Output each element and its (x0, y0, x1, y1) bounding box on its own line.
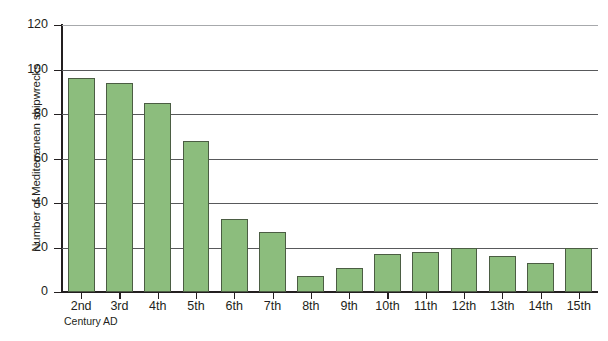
x-tick-label-4th: 4th (139, 299, 177, 313)
x-axis-title: Century AD (64, 315, 118, 327)
gridline-100 (62, 70, 598, 71)
x-tick-5th (196, 292, 197, 299)
y-tick-0 (54, 292, 62, 293)
x-tick-6th (234, 292, 235, 299)
bar-12th (451, 248, 478, 293)
bar-10th (374, 254, 401, 292)
shipwrecks-bar-chart: Number of Mediterranean shipwrecks 02040… (0, 0, 608, 341)
x-tick-7th (273, 292, 274, 299)
x-tick-label-3rd: 3rd (100, 299, 138, 313)
y-tick-label-80: 80 (0, 106, 48, 120)
bar-15th (565, 248, 592, 293)
x-tick-14th (541, 292, 542, 299)
x-tick-label-9th: 9th (330, 299, 368, 313)
x-tick-label-11th: 11th (407, 299, 445, 313)
bar-5th (183, 141, 210, 292)
y-tick-label-20: 20 (0, 240, 48, 254)
y-tick-label-40: 40 (0, 195, 48, 209)
x-tick-2nd (81, 292, 82, 299)
bar-13th (489, 256, 516, 292)
y-tick-label-120: 120 (0, 17, 48, 31)
bar-6th (221, 219, 248, 292)
y-tick-80 (54, 114, 62, 115)
plot-area (62, 25, 598, 292)
y-tick-60 (54, 159, 62, 160)
bar-14th (527, 263, 554, 292)
y-tick-100 (54, 70, 62, 71)
bar-7th (259, 232, 286, 292)
x-tick-label-5th: 5th (177, 299, 215, 313)
y-tick-label-100: 100 (0, 62, 48, 76)
x-tick-label-7th: 7th (253, 299, 291, 313)
x-tick-13th (502, 292, 503, 299)
x-tick-label-8th: 8th (292, 299, 330, 313)
bar-2nd (68, 78, 95, 292)
x-tick-4th (158, 292, 159, 299)
bar-9th (336, 268, 363, 292)
x-tick-8th (311, 292, 312, 299)
bar-8th (297, 276, 324, 292)
x-tick-label-2nd: 2nd (62, 299, 100, 313)
x-tick-label-6th: 6th (215, 299, 253, 313)
y-tick-20 (54, 248, 62, 249)
bar-4th (144, 103, 171, 292)
x-tick-9th (349, 292, 350, 299)
y-tick-label-0: 0 (0, 284, 48, 298)
x-tick-12th (464, 292, 465, 299)
gridline-20 (62, 248, 598, 249)
x-tick-label-14th: 14th (521, 299, 559, 313)
x-tick-label-15th: 15th (560, 299, 598, 313)
x-tick-11th (426, 292, 427, 299)
gridline-60 (62, 159, 598, 160)
gridline-120 (62, 25, 598, 26)
gridline-40 (62, 203, 598, 204)
x-tick-3rd (119, 292, 120, 299)
bar-11th (412, 252, 439, 292)
x-tick-15th (579, 292, 580, 299)
x-tick-10th (387, 292, 388, 299)
x-tick-label-13th: 13th (483, 299, 521, 313)
bar-3rd (106, 83, 133, 292)
x-tick-label-12th: 12th (445, 299, 483, 313)
y-tick-120 (54, 25, 62, 26)
x-tick-label-10th: 10th (368, 299, 406, 313)
y-tick-40 (54, 203, 62, 204)
gridline-80 (62, 114, 598, 115)
y-tick-label-60: 60 (0, 151, 48, 165)
